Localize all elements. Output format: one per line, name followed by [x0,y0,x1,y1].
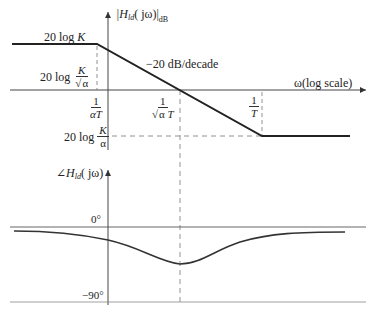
magnitude-axis-label: |Hld( jω)|dB [116,8,168,24]
low-level-label: 20 log K α [64,124,109,149]
low-level-num: K [97,124,108,137]
mid-level-den-sqrt: α [81,76,88,89]
label-argument: ( jω) [134,7,156,21]
freq-mark-2: 1 √α T [150,95,176,120]
freq-mark-2-den-rest: T [165,108,174,120]
freq-mark-1-fraction: 1 αT [88,95,104,120]
mid-level-label: 20 log K √α [40,64,90,89]
phase-axis-label: ∠Hld( jω) [56,167,103,181]
mid-level-fraction: K √α [73,64,90,89]
freq-mark-2-den-sqrt: α [158,107,165,120]
freq-mark-1: 1 αT [88,95,104,120]
freq-mark-2-den: √α T [150,108,176,120]
phase-label-prefix: ∠H [56,166,75,180]
phase-label-argument: ( jω) [81,166,103,180]
freq-mark-3-den: T [249,107,259,119]
freq-mark-1-num: 1 [91,95,101,108]
bode-diagram [0,0,380,316]
high-level-var: K [77,30,85,44]
label-unit: dB [159,15,168,24]
freq-mark-1-den: αT [88,108,104,120]
phase-tick-zero: 0° [91,214,101,225]
phase-curve [14,231,345,264]
high-level-text: 20 log [44,30,77,44]
magnitude-plot [10,12,366,305]
high-level-label: 20 log K [44,31,85,43]
phase-plot [10,170,366,305]
freq-mark-3: 1 T [249,94,259,119]
freq-mark-2-fraction: 1 √α T [150,95,176,120]
mid-level-den: √α [73,77,90,89]
low-level-den: α [98,137,108,149]
label-prefix: |H [116,7,128,21]
x-axis-label: ω(log scale) [294,77,352,89]
low-level-text: 20 log [64,130,97,144]
phase-tick-neg90: −90° [82,290,104,301]
mid-level-text: 20 log [40,70,73,84]
freq-mark-3-num: 1 [249,94,259,107]
slope-label: −20 dB/decade [146,58,218,70]
freq-mark-3-fraction: 1 T [249,94,259,119]
low-level-fraction: K α [97,124,108,149]
